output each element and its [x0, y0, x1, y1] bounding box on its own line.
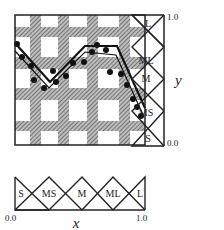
y-mf-ML: ML — [139, 55, 154, 66]
x-max-tick: 1.0 — [136, 213, 148, 223]
x-mf-L: L — [137, 188, 143, 199]
y-min-tick: 0.0 — [167, 138, 179, 148]
y-axis-label: y — [173, 72, 182, 88]
y-mf-MS: MS — [139, 107, 153, 118]
x-mf-S: S — [18, 188, 24, 199]
x-mf-M: M — [78, 188, 87, 199]
y-mf-L: L — [145, 18, 151, 29]
x-min-tick: 0.0 — [5, 213, 17, 223]
x-mf-MS: MS — [42, 188, 56, 199]
fuzzy-model-diagram: L ML M MS S 1.0 0.0 y S MS M ML L 0.0 1.… — [0, 0, 224, 230]
scatter-plot — [14, 15, 145, 145]
y-mf-S: S — [145, 133, 151, 144]
x-axis-label: x — [72, 215, 80, 230]
y-max-tick: 1.0 — [167, 12, 179, 22]
x-mf-ML: ML — [106, 188, 121, 199]
y-mf-M: M — [142, 73, 151, 84]
